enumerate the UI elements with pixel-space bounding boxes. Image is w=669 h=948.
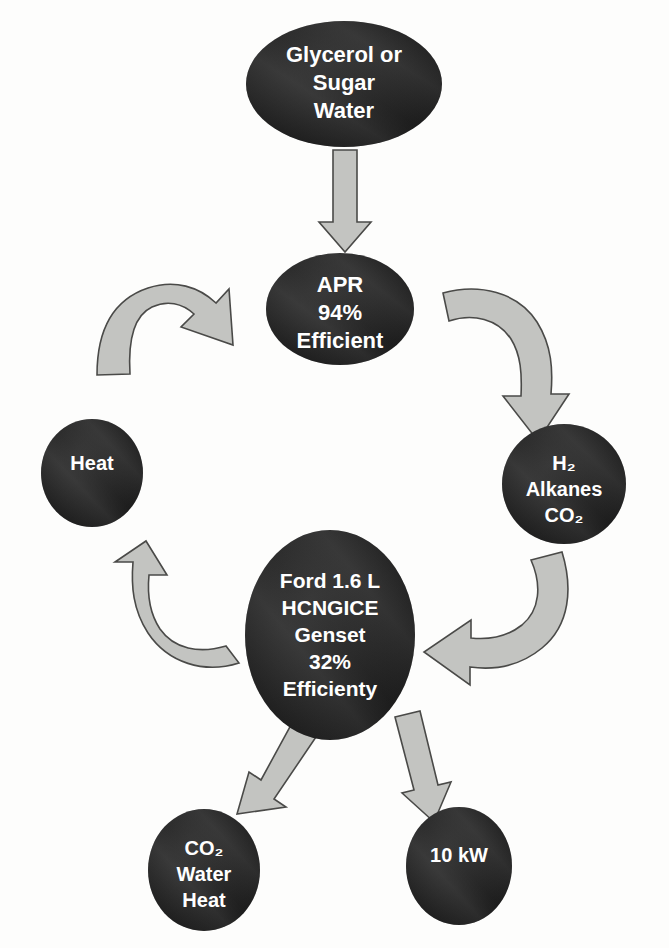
genset-line-4: 32% <box>309 650 351 673</box>
arrow-apr-to-products <box>443 289 569 441</box>
exhaust-line-3: Heat <box>182 889 226 911</box>
apr-line-1: APR <box>317 272 364 297</box>
products-line-1: H₂ <box>552 452 575 474</box>
products-line-3: CO₂ <box>545 504 584 526</box>
glycerol-sugar-water-line-2: Sugar <box>313 70 376 95</box>
arrow-genset-to-heat <box>115 541 239 667</box>
apr-node[interactable]: APR 94% Efficient <box>266 253 414 365</box>
hydrogen-alkanes-co2-node[interactable]: H₂ Alkanes CO₂ <box>502 424 626 544</box>
process-flow-diagram: Glycerol or Sugar Water APR 94% Efficien… <box>0 0 669 948</box>
arrow-genset-to-exhaust <box>237 723 316 814</box>
arrow-heat-to-apr <box>97 284 233 375</box>
glycerol-sugar-water-node[interactable]: Glycerol or Sugar Water <box>246 21 442 147</box>
ten-kilowatt-node[interactable]: 10 kW <box>406 807 512 925</box>
co2-water-heat-node[interactable]: CO₂ Water Heat <box>148 809 260 931</box>
exhaust-line-1: CO₂ <box>185 837 224 859</box>
genset-line-2: HCNGICE <box>282 596 379 619</box>
arrow-genset-to-power <box>395 711 451 822</box>
diagram-canvas: Glycerol or Sugar Water APR 94% Efficien… <box>0 0 669 948</box>
genset-line-3: Genset <box>294 623 365 646</box>
glycerol-sugar-water-line-3: Water <box>314 98 375 123</box>
ford-hcngice-genset-node[interactable]: Ford 1.6 L HCNGICE Genset 32% Efficienty <box>245 530 415 740</box>
power-line-1: 10 kW <box>430 844 488 866</box>
genset-line-5: Efficienty <box>283 677 378 700</box>
apr-line-2: 94% <box>318 300 362 325</box>
products-line-2: Alkanes <box>526 478 603 500</box>
heat-line-1: Heat <box>70 452 114 474</box>
arrow-feedstock-to-apr <box>319 150 371 252</box>
arrow-products-to-genset <box>424 552 568 685</box>
genset-line-1: Ford 1.6 L <box>280 569 381 592</box>
apr-line-3: Efficient <box>297 328 384 353</box>
exhaust-line-2: Water <box>177 863 232 885</box>
heat-node[interactable]: Heat <box>41 419 143 527</box>
glycerol-sugar-water-line-1: Glycerol or <box>286 42 403 67</box>
